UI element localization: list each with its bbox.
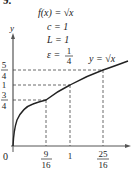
ytick-3-4-num: 3 xyxy=(2,90,7,100)
ytick-1: 1 xyxy=(2,80,7,90)
c-value: c = 1 xyxy=(47,21,68,32)
xtick-9-16-den: 16 xyxy=(42,160,52,170)
xtick-25-16-den: 16 xyxy=(99,160,109,170)
function-def: f(x) = √x xyxy=(38,7,74,19)
x-axis-arrow-icon xyxy=(125,144,131,148)
sqrt-curve xyxy=(13,61,128,146)
ytick-3-4-den: 4 xyxy=(2,101,7,111)
y-axis-arrow-icon xyxy=(11,33,15,39)
l-value: L = 1 xyxy=(46,34,69,45)
epsilon-num: 1 xyxy=(67,46,72,56)
xtick-25-16-num: 25 xyxy=(99,149,109,159)
sqrt-epsilon-delta-chart: 9. f(x) = √x c = 1 L = 1 ε = 1 4 y = √x … xyxy=(0,0,135,170)
epsilon-label: ε = xyxy=(47,49,60,60)
y-axis-label: y xyxy=(9,23,14,33)
xtick-1: 1 xyxy=(68,151,73,161)
curve-label: y = √x xyxy=(88,53,116,64)
problem-label: 9. xyxy=(3,0,12,6)
xtick-9-16-num: 9 xyxy=(44,149,49,159)
origin-label: 0 xyxy=(3,151,8,162)
epsilon-den: 4 xyxy=(67,56,72,66)
ytick-5-4-num: 5 xyxy=(2,60,7,70)
